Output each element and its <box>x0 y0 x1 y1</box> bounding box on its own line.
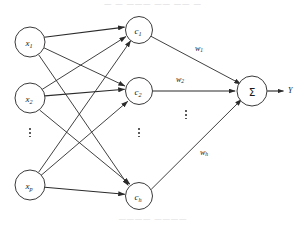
ellipsis-dot <box>138 128 140 130</box>
node-c2[interactable]: c2 <box>126 78 153 105</box>
weight-w1-label: w1 <box>195 44 203 54</box>
hidden-layer-ellipsis <box>134 126 144 137</box>
edge-ch-sigma <box>151 99 241 189</box>
node-xp[interactable]: xp <box>15 170 45 200</box>
edge-xp-c1 <box>39 41 131 173</box>
edge-x2-ch <box>40 110 130 184</box>
edge-xp-c2 <box>41 101 128 175</box>
ellipsis-dot <box>29 132 31 134</box>
edge-x2-c2 <box>45 89 125 96</box>
node-x1[interactable]: x1 <box>15 27 45 57</box>
input-layer: x1 x2 xp <box>15 27 45 200</box>
node-ch[interactable]: ch <box>126 183 153 210</box>
edge-x1-c1 <box>44 27 124 37</box>
neural-network-figure: — — ——— —— —— — <box>0 0 306 225</box>
weight-w2-label: w2 <box>176 75 184 85</box>
weight-wh-label: wh <box>200 148 208 158</box>
ellipsis-dot <box>138 132 140 134</box>
node-x2[interactable]: x2 <box>15 83 45 113</box>
network-diagram-canvas: x1 x2 xp c1 <box>0 0 306 225</box>
ellipsis-dot <box>29 136 31 138</box>
node-sigma[interactable]: Σ <box>237 76 267 106</box>
figure-bottom-caption: ———— ———— <box>0 215 306 224</box>
weights-ellipsis <box>181 108 191 119</box>
ellipsis-dot <box>185 118 187 120</box>
ellipsis-dot <box>29 128 31 130</box>
input-layer-ellipsis <box>25 126 35 137</box>
output-y-label: Y <box>288 86 294 95</box>
edge-xp-ch <box>45 187 125 194</box>
ellipsis-dot <box>138 136 140 138</box>
hidden-layer: c1 c2 ch <box>126 17 153 210</box>
ellipsis-dot <box>185 114 187 116</box>
ellipsis-dot <box>185 110 187 112</box>
edge-x2-c1 <box>42 37 126 90</box>
edges-hidden-to-output <box>151 36 242 189</box>
node-sigma-label: Σ <box>249 86 256 98</box>
edges-input-to-hidden <box>39 27 131 194</box>
weight-labels: w1 w2 wh <box>176 44 208 158</box>
node-c1[interactable]: c1 <box>126 17 153 44</box>
